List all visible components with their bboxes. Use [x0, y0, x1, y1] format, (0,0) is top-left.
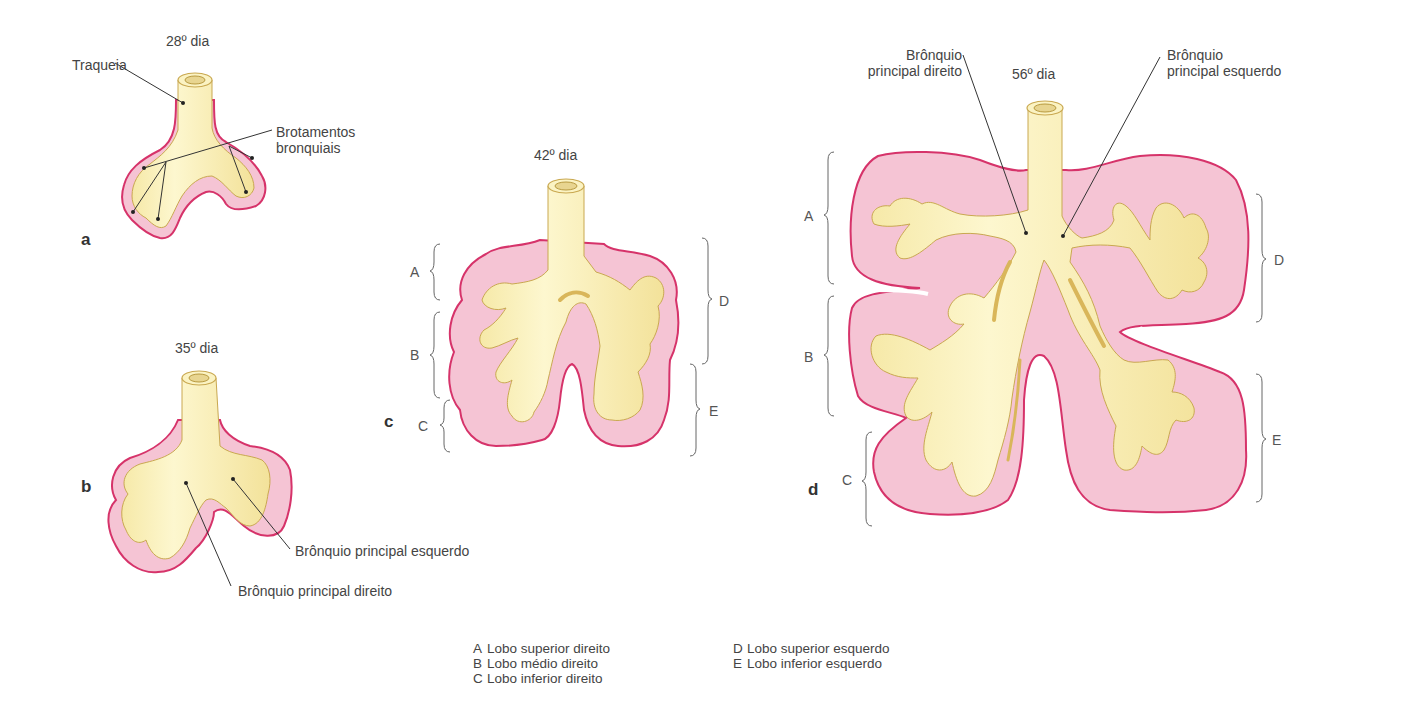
bronchial-buds-label-line1: Brotamentos — [276, 124, 355, 140]
panel-c-lobe-e: E — [709, 403, 718, 419]
lung-development-illustration — [0, 0, 1413, 720]
legend-item: ELobo inferior esquerdo — [733, 656, 890, 671]
panel-c-lobe-a: A — [410, 264, 419, 280]
right-main-bronchus-label: Brônquio principal direito — [238, 583, 392, 599]
panel-b-day-label: 35º dia — [175, 340, 218, 356]
panel-d-letter: d — [808, 480, 818, 500]
panel-d-lobe-a: A — [804, 208, 813, 224]
panel-b-drawing — [108, 371, 291, 586]
panel-c-lobe-c: C — [418, 418, 428, 434]
panel-d-lobe-e: E — [1272, 432, 1281, 448]
panel-a-drawing — [115, 63, 272, 238]
panel-a-day-label: 28º dia — [166, 33, 209, 49]
left-main-bronchus-label: Brônquio principal esquerdo — [295, 543, 469, 559]
legend-right-lung: ALobo superior direito BLobo médio direi… — [473, 641, 610, 686]
panel-c-lobe-d: D — [719, 293, 729, 309]
panel-c-lobe-b: B — [410, 347, 419, 363]
legend-item: DLobo superior esquerdo — [733, 641, 890, 656]
left-main-bronchus-d-line1: Brônquio — [1167, 47, 1223, 63]
panel-d-lobe-d: D — [1274, 252, 1284, 268]
trachea-label: Traqueia — [72, 57, 127, 73]
right-main-bronchus-d-line2: principal direito — [832, 63, 962, 79]
legend-item: BLobo médio direito — [473, 656, 610, 671]
panel-b-letter: b — [81, 477, 91, 497]
panel-d-drawing — [824, 55, 1266, 526]
legend-item: CLobo inferior direito — [473, 671, 610, 686]
legend-item: ALobo superior direito — [473, 641, 610, 656]
legend-left-lung: DLobo superior esquerdo ELobo inferior e… — [733, 641, 890, 671]
panel-a-letter: a — [81, 230, 90, 250]
panel-d-lobe-c: C — [842, 472, 852, 488]
left-main-bronchus-d-line2: principal esquerdo — [1167, 63, 1281, 79]
panel-d-day-label: 56º dia — [1012, 66, 1055, 82]
panel-c-letter: c — [384, 412, 393, 432]
panel-d-lobe-b: B — [804, 349, 813, 365]
right-main-bronchus-d-line1: Brônquio — [882, 47, 962, 63]
panel-c-day-label: 42º dia — [534, 147, 577, 163]
bronchial-buds-label-line2: bronquiais — [276, 140, 341, 156]
panel-c-drawing — [430, 179, 712, 456]
